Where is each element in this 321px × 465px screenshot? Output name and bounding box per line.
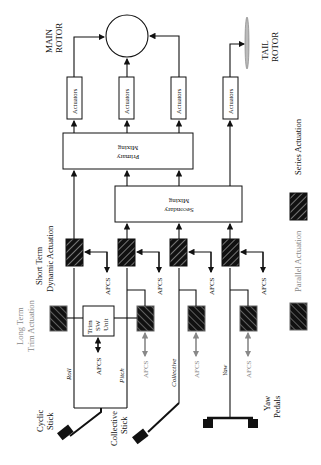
- svg-text:Pedals: Pedals: [272, 396, 282, 418]
- svg-text:Trim: Trim: [86, 320, 94, 334]
- svg-text:Stick: Stick: [119, 416, 129, 434]
- cyclic-stick-label: Cyclic Stick: [35, 410, 55, 432]
- series-actuator-collective: [170, 239, 187, 266]
- primary-mixing-label: Mixing Primary: [116, 144, 139, 161]
- svg-text:ROTOR: ROTOR: [270, 32, 280, 62]
- svg-text:Unit: Unit: [102, 319, 110, 332]
- main-rotor-icon: [106, 15, 148, 57]
- yaw-pedal-left-icon: [203, 419, 213, 428]
- yaw-pedals-label: Yaw Pedals: [262, 395, 282, 418]
- series-actuator-roll: [66, 239, 83, 266]
- svg-text:Collective: Collective: [109, 411, 119, 446]
- svg-text:Long Term: Long Term: [15, 307, 25, 345]
- svg-text:Short Term: Short Term: [34, 246, 44, 285]
- actuator-label-2: Actuators: [123, 88, 130, 114]
- afcs-label-yaw: AFCS: [260, 277, 268, 295]
- channel-label-yaw: Yaw: [221, 364, 229, 376]
- svg-text:MAIN: MAIN: [44, 29, 54, 53]
- afcs-label-collective: AFCS: [208, 277, 216, 295]
- afcs-label-roll: AFCS: [104, 277, 112, 295]
- svg-text:Yaw: Yaw: [262, 395, 272, 411]
- tail-rotor-label: TAIL ROTOR: [260, 32, 280, 62]
- short-term-label: Short Term Dynamic Actuation: [34, 225, 55, 292]
- series-actuator-pitch: [118, 239, 135, 266]
- channel-label-pitch: Pitch: [118, 368, 126, 384]
- legend-series-label: Series Actuation: [293, 118, 303, 175]
- tail-rotor-icon: [245, 17, 249, 69]
- afcs-label-trim: AFCS: [95, 357, 103, 375]
- parallel-actuator-pitch: [137, 306, 154, 331]
- collective-stick-label: Collective Stick: [109, 411, 129, 446]
- svg-text:Trim Actuation: Trim Actuation: [26, 299, 36, 352]
- cyclic-stick-icon: [57, 425, 74, 441]
- afcs-label-pitch: AFCS: [156, 277, 164, 295]
- flight-control-diagram: MAIN ROTOR TAIL ROTOR Actuators Actuator…: [0, 0, 321, 465]
- svg-text:Primary: Primary: [116, 153, 139, 161]
- actuator-label-4: Actuators: [227, 88, 234, 114]
- actuator-label-3: Actuators: [175, 88, 182, 114]
- svg-text:Dynamic Actuation: Dynamic Actuation: [45, 225, 55, 292]
- trim-sw-unit-label: Trim SW Unit: [86, 319, 110, 335]
- svg-text:Mixing: Mixing: [168, 197, 189, 205]
- long-term-label: Long Term Trim Actuation: [15, 299, 36, 352]
- series-actuator-yaw: [222, 239, 239, 266]
- yaw-pedal-right-icon: [248, 419, 258, 428]
- parallel-actuator-roll: [50, 306, 67, 331]
- legend-parallel-swatch: [290, 303, 307, 330]
- parallel-actuator-collective: [188, 306, 205, 331]
- svg-text:ROTOR: ROTOR: [54, 23, 64, 53]
- channel-label-collective: Collective: [170, 359, 178, 387]
- svg-text:SW: SW: [94, 320, 102, 331]
- svg-text:Secondary: Secondary: [164, 206, 194, 214]
- svg-text:Mixing: Mixing: [117, 144, 138, 152]
- legend-parallel-label: Parallel Actuation: [293, 230, 303, 292]
- svg-text:Cyclic: Cyclic: [35, 410, 45, 432]
- legend-series-swatch: [290, 193, 307, 220]
- svg-text:Stick: Stick: [45, 412, 55, 430]
- afcs-label-pitch-parallel: AFCS: [142, 360, 150, 378]
- collective-stick-icon: [132, 429, 149, 445]
- afcs-label-yaw-parallel: AFCS: [245, 360, 253, 378]
- parallel-actuator-yaw: [240, 306, 257, 331]
- actuator-label-1: Actuators: [71, 88, 78, 114]
- main-rotor-label: MAIN ROTOR: [44, 23, 64, 53]
- channel-label-roll: Roll: [65, 368, 73, 381]
- afcs-label-collective-parallel: AFCS: [193, 360, 201, 378]
- svg-text:TAIL: TAIL: [260, 40, 270, 60]
